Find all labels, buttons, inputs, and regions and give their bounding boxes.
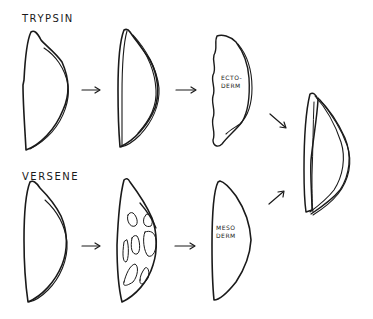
trypsin-stage-1-tissue [23,31,68,150]
diagram-canvas [0,0,373,319]
recombined-tissue [304,93,350,215]
versene-stage-1-tissue [24,181,67,302]
mesoderm-tissue [212,181,251,300]
arrow-right-2 [176,87,196,93]
versene-stage-2-tissue [117,179,156,302]
arrow-right-1 [82,87,100,93]
arrow-diagonal-up [269,191,284,204]
arrow-right-3 [82,243,100,249]
arrow-diagonal-down [270,114,286,128]
ectoderm-tissue [213,35,252,146]
trypsin-stage-2-tissue [118,29,159,147]
arrow-right-4 [175,243,195,249]
